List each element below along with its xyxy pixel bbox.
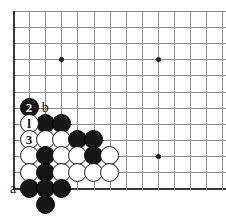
move-number-label: 3 [20, 130, 39, 149]
point-label-a: a [4, 179, 23, 198]
go-board-diagram: 2l3ba [0, 0, 226, 216]
label-layer: 2l3ba [0, 0, 226, 216]
point-label-b: b [36, 98, 55, 117]
